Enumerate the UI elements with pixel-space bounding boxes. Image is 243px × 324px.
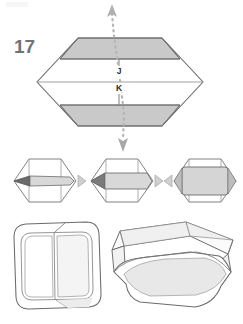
middle-shape-2 <box>91 159 153 202</box>
shape3-filled-panel <box>182 167 228 195</box>
separator-arrow-left-1 <box>164 175 172 187</box>
down-arrowhead <box>118 138 128 152</box>
hexagon-top-band <box>60 38 180 59</box>
point-label-j: J <box>117 66 122 76</box>
main-figure: J K <box>37 4 203 152</box>
flat-box-right-panel <box>57 235 89 297</box>
diagram-canvas: 17 <box>0 0 243 324</box>
shape3-right-wedge <box>228 168 236 194</box>
step-number: 17 <box>14 36 35 57</box>
scan-artifact <box>6 2 28 7</box>
origami-diagram-page: 17 <box>0 0 243 324</box>
three-d-box-view <box>112 222 233 307</box>
separator-arrow-right-2 <box>155 175 163 187</box>
point-label-k: K <box>116 83 123 93</box>
flat-box-view <box>14 222 101 309</box>
hexagon-bottom-band <box>60 105 180 126</box>
middle-shape-3 <box>174 159 236 202</box>
middle-shape-1 <box>14 159 76 202</box>
flat-box-left-panel <box>25 236 53 297</box>
separator-arrow-right-1 <box>78 175 86 187</box>
shape3-left-wedge <box>174 168 182 194</box>
